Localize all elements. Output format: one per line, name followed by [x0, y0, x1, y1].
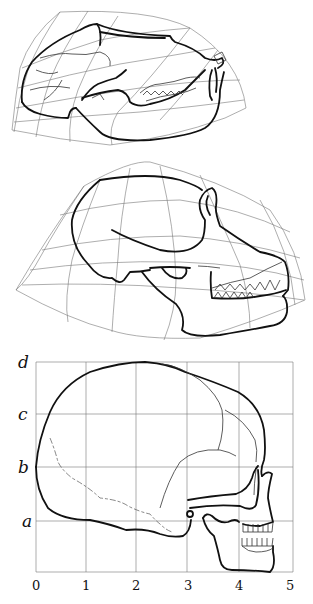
bottom-skull-panel: d c b a 0 1 2 3 4 5	[18, 352, 294, 593]
y-axis-labels: d c b a	[18, 352, 32, 531]
x-label-1: 1	[82, 578, 90, 593]
y-label-d: d	[18, 352, 29, 372]
top-skull-panel	[12, 11, 246, 145]
x-axis-labels: 0 1 2 3 4 5	[32, 578, 294, 593]
x-label-5: 5	[286, 578, 294, 593]
skull-transformation-figure: d c b a 0 1 2 3 4 5	[0, 0, 313, 604]
y-label-a: a	[22, 511, 32, 531]
x-label-0: 0	[32, 578, 40, 593]
y-label-c: c	[18, 404, 28, 424]
y-label-b: b	[18, 457, 29, 477]
top-curved-grid	[12, 11, 246, 145]
cartesian-grid	[36, 362, 293, 572]
middle-skull-panel	[16, 162, 305, 340]
x-label-3: 3	[184, 578, 192, 593]
x-label-4: 4	[235, 578, 243, 593]
x-label-2: 2	[132, 578, 140, 593]
